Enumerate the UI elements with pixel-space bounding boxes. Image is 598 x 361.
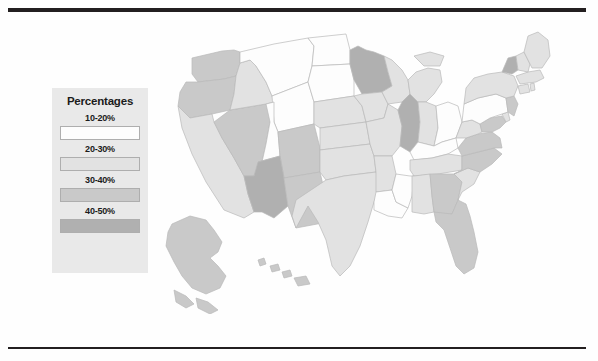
state-north-dakota: North Dakota — 10-20% [308, 34, 350, 66]
legend-entry: 30-40% [60, 175, 140, 202]
map-legend: Percentages 10-20%20-30%30-40%40-50% [52, 88, 148, 273]
state-south-dakota: South Dakota — 10-20% [308, 64, 354, 102]
us-map-svg: Washington — 30-40%Oregon — 30-40%Califo… [162, 26, 574, 314]
legend-color-swatch [60, 126, 140, 140]
state-rhode-island: Rhode Island — 20-30% [530, 83, 535, 91]
state-minnesota: Minnesota — 40-50% [350, 46, 392, 94]
legend-color-swatch [60, 219, 140, 233]
legend-entry-list: 10-20%20-30%30-40%40-50% [60, 113, 140, 233]
page-canvas: Percentages 10-20%20-30%30-40%40-50% Was… [0, 0, 598, 361]
legend-entry-label: 20-30% [60, 144, 140, 155]
state-hawaii: Hawaii — 30-40% [258, 258, 310, 286]
top-divider-rule [8, 8, 586, 12]
state-indiana: Indiana — 20-30% [418, 102, 438, 146]
legend-entry: 10-20% [60, 113, 140, 140]
choropleth-map: Washington — 30-40%Oregon — 30-40%Califo… [162, 26, 574, 314]
state-massachusetts: Massachusetts — 20-30% [516, 70, 544, 84]
legend-entry: 20-30% [60, 144, 140, 171]
legend-color-swatch [60, 188, 140, 202]
state-connecticut: Connecticut — 20-30% [518, 84, 530, 94]
legend-title: Percentages [60, 95, 140, 108]
state-alaska: Alaska — 30-40% [166, 216, 226, 314]
legend-entry-label: 40-50% [60, 206, 140, 217]
state-colorado: Colorado — 30-40% [278, 124, 320, 178]
state-vermont: Vermont — 40-50% [502, 56, 518, 74]
legend-color-swatch [60, 157, 140, 171]
state-ohio: Ohio — 10-20% [434, 102, 462, 146]
bottom-divider-rule [8, 347, 586, 349]
legend-entry: 40-50% [60, 206, 140, 233]
state-michigan: Michigan — 20-30% [408, 52, 444, 102]
legend-entry-label: 10-20% [60, 113, 140, 124]
legend-entry-label: 30-40% [60, 175, 140, 186]
